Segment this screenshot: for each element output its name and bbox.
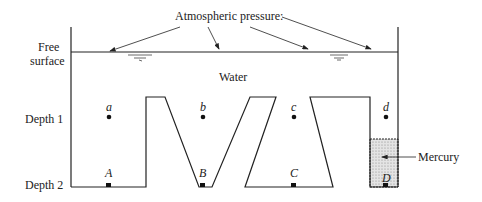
- depth-1-label: Depth 1: [25, 112, 63, 126]
- point-d: [384, 115, 389, 120]
- pressure-arrow-3: [250, 27, 308, 49]
- free-surface-label-2: surface: [30, 54, 65, 68]
- container-outline: [71, 97, 398, 187]
- mercury-label: Mercury: [418, 150, 459, 164]
- point-a-label: a: [106, 100, 112, 114]
- water-label: Water: [219, 70, 247, 84]
- water-level-symbol-1: [128, 55, 152, 61]
- water-level-symbol-2: [330, 55, 348, 60]
- pressure-arrow-1: [110, 27, 180, 51]
- point-a: [107, 115, 112, 120]
- pressure-arrow-2: [208, 27, 219, 49]
- point-d-label: d: [383, 100, 389, 114]
- point-C-label: C: [290, 166, 298, 180]
- point-A: [106, 183, 111, 187]
- point-b: [201, 115, 206, 120]
- free-surface-label-1: Free: [38, 40, 59, 54]
- point-C: [291, 183, 296, 187]
- point-B: [200, 183, 205, 187]
- point-A-label: A: [105, 166, 112, 180]
- point-B-label: B: [199, 166, 206, 180]
- point-b-label: b: [200, 100, 206, 114]
- depth-2-label: Depth 2: [25, 178, 63, 192]
- point-c: [292, 115, 297, 120]
- pressure-vessel-diagram: [0, 0, 482, 202]
- point-D-label: D: [382, 171, 391, 185]
- atmospheric-pressure-label: Atmospheric pressure:: [175, 9, 283, 23]
- point-c-label: c: [291, 100, 296, 114]
